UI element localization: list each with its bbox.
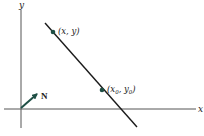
line-normal-vector-diagram: y x (x, y) (x0, y0) N: [0, 0, 204, 136]
normal-vector-label: N: [41, 91, 48, 101]
point-x0-y0: [100, 88, 105, 93]
y-axis-label: y: [18, 0, 25, 10]
normal-vector-arrow: [21, 94, 37, 108]
point-x-y: [51, 30, 56, 35]
line-l: [45, 23, 137, 127]
point-x-y-label: (x, y): [58, 26, 80, 36]
point-x0-y0-label: (x0, y0): [107, 84, 136, 95]
x-axis-label: x: [198, 104, 203, 114]
